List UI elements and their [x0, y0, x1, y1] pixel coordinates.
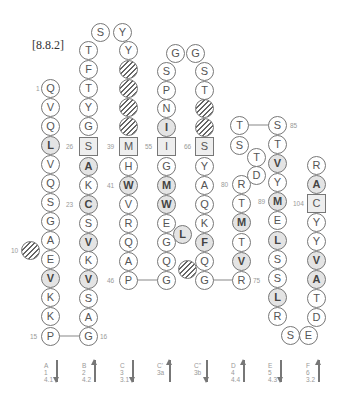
residue: Q — [41, 174, 60, 193]
residue: K — [41, 288, 60, 307]
residue-number: 66 — [184, 143, 191, 150]
residue: R — [232, 271, 251, 290]
residue-number: 23 — [66, 201, 73, 208]
strand-name: A — [44, 362, 53, 369]
glycosylation-residue — [119, 60, 138, 79]
residue: P — [157, 81, 176, 100]
strand-subnumber — [157, 376, 164, 383]
residue-number: 15 — [30, 333, 37, 340]
residue: A — [79, 308, 98, 327]
residue: D — [307, 308, 326, 327]
residue: T — [268, 135, 287, 154]
residue: T — [247, 148, 266, 167]
residue: A — [307, 175, 326, 194]
strand-subnumber: 4.4 — [231, 376, 240, 383]
glycosylation-residue — [119, 79, 138, 98]
residue: V — [41, 98, 60, 117]
figure-label: [8.8.2] — [32, 38, 64, 53]
residue: T — [232, 194, 251, 213]
residue: V — [232, 252, 251, 271]
residue: I — [157, 137, 176, 156]
residue: S — [157, 62, 176, 81]
strand-name: E — [268, 362, 277, 369]
residue: A — [79, 157, 98, 176]
residue: A — [41, 231, 60, 250]
residue: S — [79, 137, 98, 156]
strand-number: 2 — [82, 369, 91, 376]
residue: M — [268, 192, 287, 211]
residue: H — [119, 157, 138, 176]
residue: S — [195, 137, 214, 156]
residue: Q — [41, 117, 60, 136]
residue: E — [268, 211, 287, 230]
residue: S — [91, 23, 110, 42]
residue: Y — [119, 41, 138, 60]
residue: K — [79, 251, 98, 270]
residue: M — [119, 137, 138, 156]
residue: Y — [113, 23, 132, 42]
residue: Y — [268, 173, 287, 192]
residue: S — [195, 62, 214, 81]
strand-label: D44.4 — [231, 362, 240, 383]
strand-label: F63.2 — [306, 362, 315, 383]
residue: Q — [119, 233, 138, 252]
residue: S — [268, 250, 287, 269]
residue-number: 85 — [290, 122, 297, 129]
residue: T — [307, 289, 326, 308]
residue: S — [268, 269, 287, 288]
residue: S — [41, 193, 60, 212]
residue: V — [41, 269, 60, 288]
arrow-up-icon — [243, 360, 245, 382]
residue: T — [79, 79, 98, 98]
glycosylation-residue — [21, 241, 40, 260]
residue: E — [41, 250, 60, 269]
residue: G — [157, 271, 176, 290]
residue: T — [230, 116, 249, 135]
residue: Q — [41, 79, 60, 98]
strand-name: C" — [194, 362, 201, 369]
residue: S — [79, 289, 98, 308]
residue: V — [119, 195, 138, 214]
residue: R — [268, 307, 287, 326]
strand-number: 4 — [231, 369, 240, 376]
residue-number: 89 — [258, 198, 265, 205]
residue-number: 16 — [100, 333, 107, 340]
strand-name: B — [82, 362, 91, 369]
strand-subnumber: 4.2 — [82, 376, 91, 383]
residue: S — [79, 214, 98, 233]
residue-number: 1 — [36, 85, 40, 92]
arrow-down-icon — [206, 360, 208, 382]
glycosylation-residue — [119, 98, 138, 117]
residue: T — [79, 41, 98, 60]
residue: I — [157, 118, 176, 137]
residue: V — [268, 154, 287, 173]
strand-name: C — [120, 362, 129, 369]
residue: G — [41, 212, 60, 231]
strand-name: F — [306, 362, 315, 369]
strand-number: 3b — [194, 369, 201, 376]
residue: F — [195, 233, 214, 252]
residue: Q — [195, 252, 214, 271]
strand-number: 3 — [120, 369, 129, 376]
topology-diagram: [8.8.2] QVQLVQSGAEVKKPGASVKVSCKASGYTFTSY… — [0, 0, 343, 407]
strand-label: C'3a — [157, 362, 164, 383]
residue: K — [79, 176, 98, 195]
arrow-down-icon — [280, 360, 282, 382]
strand-subnumber — [194, 376, 201, 383]
residue: G — [195, 271, 214, 290]
residue: W — [119, 176, 138, 195]
strand-name: D — [231, 362, 240, 369]
residue-number: 55 — [145, 143, 152, 150]
residue: V — [79, 233, 98, 252]
residue: D — [247, 166, 266, 185]
strand-number: 3a — [157, 369, 164, 376]
residue: L — [268, 231, 287, 250]
residue-number: 46 — [107, 277, 114, 284]
residue: P — [119, 271, 138, 290]
residue: S — [230, 136, 249, 155]
residue: L — [41, 136, 60, 155]
residue: T — [232, 233, 251, 252]
residue: A — [195, 176, 214, 195]
residue: F — [79, 60, 98, 79]
strand-label: C"3b — [194, 362, 201, 383]
